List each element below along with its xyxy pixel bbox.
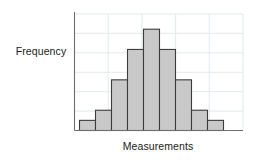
- y-axis-label: Frequency: [10, 45, 72, 57]
- histogram-bar: [208, 120, 224, 130]
- histogram-bars: [80, 29, 224, 130]
- histogram-figure: Frequency Measurements: [0, 0, 258, 162]
- histogram-bar: [112, 80, 128, 131]
- histogram-bar: [128, 49, 144, 130]
- histogram-bar: [144, 29, 160, 130]
- histogram-bar: [80, 120, 96, 130]
- x-axis-label: Measurements: [78, 140, 238, 152]
- histogram-bar: [160, 49, 176, 130]
- plot-area: [0, 0, 258, 162]
- histogram-bar: [192, 110, 208, 130]
- histogram-bar: [176, 80, 192, 131]
- histogram-bar: [96, 110, 112, 130]
